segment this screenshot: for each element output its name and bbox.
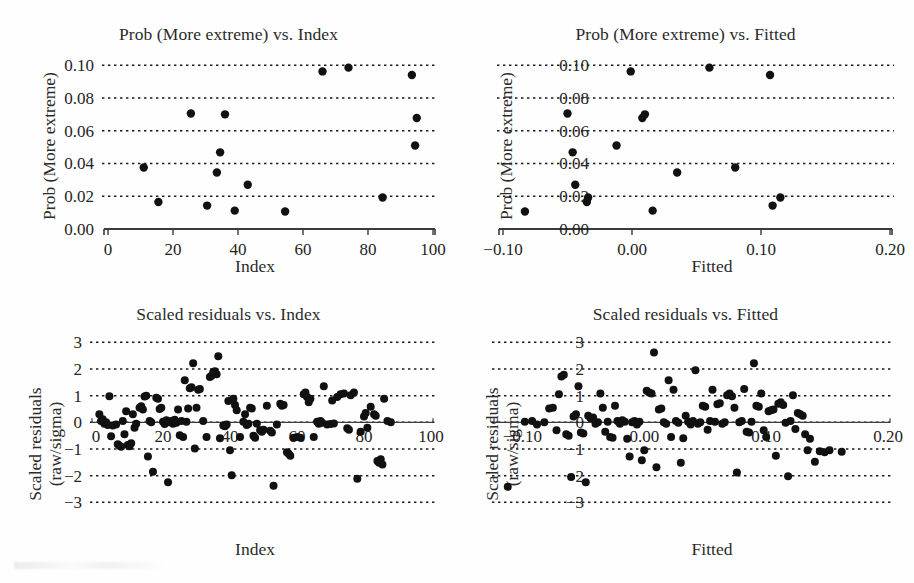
data-point [670, 386, 678, 394]
svg-text:0.00: 0.00 [629, 427, 659, 446]
data-point [584, 193, 592, 201]
data-point [216, 434, 224, 442]
data-point [119, 417, 127, 425]
svg-text:0.06: 0.06 [64, 122, 94, 141]
data-point [568, 148, 576, 156]
data-point [533, 420, 541, 428]
data-point [716, 399, 724, 407]
data-point [750, 359, 758, 367]
data-point [320, 382, 328, 390]
data-point [766, 71, 774, 79]
data-point [280, 401, 288, 409]
data-point [677, 459, 685, 467]
data-point [181, 376, 189, 384]
data-point [791, 425, 799, 433]
data-point [154, 198, 162, 206]
data-point [733, 468, 741, 476]
data-point [648, 390, 656, 398]
data-point [730, 404, 738, 412]
data-point [521, 207, 529, 215]
data-point [696, 418, 704, 426]
data-point [738, 417, 746, 425]
data-point [662, 420, 670, 428]
data-point [353, 475, 361, 483]
data-point [755, 403, 763, 411]
svg-text:−2: −2 [64, 467, 82, 486]
svg-text:0.02: 0.02 [64, 187, 94, 206]
data-point [621, 418, 629, 426]
data-point [189, 359, 197, 367]
data-point [721, 418, 729, 426]
data-point [604, 418, 612, 426]
data-point [105, 392, 113, 400]
data-point [665, 376, 673, 384]
data-point [184, 404, 192, 412]
data-point [596, 390, 604, 398]
data-point [838, 448, 846, 456]
data-point [296, 434, 304, 442]
scatter-points [140, 63, 421, 215]
data-point [740, 385, 748, 393]
data-point [411, 141, 419, 149]
data-point [193, 404, 201, 412]
plot-area: 0.000.020.040.060.080.10−0.100.000.100.2… [457, 0, 914, 291]
data-point [611, 402, 619, 410]
svg-text:2: 2 [74, 360, 83, 379]
data-point [306, 395, 314, 403]
data-point [674, 419, 682, 427]
data-point [330, 419, 338, 427]
data-point [772, 452, 780, 460]
svg-text:100: 100 [420, 240, 446, 259]
data-point [648, 206, 656, 214]
data-point [652, 463, 660, 471]
svg-text:0.08: 0.08 [559, 89, 589, 108]
data-point [263, 402, 271, 410]
data-point [357, 428, 365, 436]
data-point [273, 420, 281, 428]
data-point [286, 452, 294, 460]
data-point [806, 435, 814, 443]
data-point [107, 432, 115, 440]
data-point [582, 478, 590, 486]
data-point [139, 406, 147, 414]
data-point [367, 403, 375, 411]
data-point [701, 403, 709, 411]
data-point [594, 418, 602, 426]
data-point [563, 109, 571, 117]
data-point [787, 417, 795, 425]
data-point [762, 433, 770, 441]
data-point [260, 426, 268, 434]
data-point [638, 456, 646, 464]
data-point [673, 168, 681, 176]
svg-text:0: 0 [92, 427, 101, 446]
data-point [731, 163, 739, 171]
scan-artifact [14, 562, 164, 569]
svg-text:0.04: 0.04 [64, 154, 94, 173]
data-point [378, 460, 386, 468]
data-point [745, 428, 753, 436]
data-point [164, 478, 172, 486]
data-point [226, 446, 234, 454]
panel-prob-vs-fitted: Prob (More extreme) vs. Fitted Prob (Mor… [457, 0, 914, 291]
data-point [344, 63, 352, 71]
data-point [776, 193, 784, 201]
data-point [244, 420, 252, 428]
data-point [504, 483, 512, 491]
data-point [244, 181, 252, 189]
data-point [705, 63, 713, 71]
svg-text:0.20: 0.20 [873, 427, 903, 446]
data-point [572, 410, 580, 418]
data-point [318, 67, 326, 75]
data-point [187, 109, 195, 117]
data-point [667, 433, 675, 441]
panel-resid-vs-index: Scaled residuals vs. Index Scaled residu… [0, 291, 457, 583]
svg-text:0.10: 0.10 [64, 56, 94, 75]
data-point [231, 206, 239, 214]
data-point [191, 444, 199, 452]
data-point [154, 395, 162, 403]
data-point [521, 418, 529, 426]
data-point [270, 482, 278, 490]
data-point [248, 404, 256, 412]
x-axis-label: Fitted [567, 256, 857, 277]
data-point [635, 418, 643, 426]
